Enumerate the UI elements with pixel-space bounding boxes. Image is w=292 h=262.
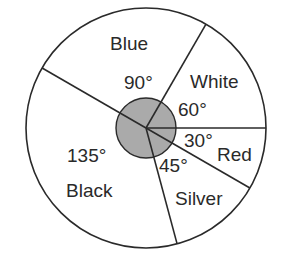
angle-label-red: 30° <box>184 130 213 151</box>
angle-label-black: 135° <box>67 145 106 166</box>
label-red: Red <box>217 144 252 165</box>
angle-label-white: 60° <box>178 99 207 120</box>
angle-label-silver: 45° <box>159 155 188 176</box>
label-silver: Silver <box>175 188 223 209</box>
label-white: White <box>190 71 239 92</box>
angle-label-blue: 90° <box>124 72 153 93</box>
pie-chart: Blue White Red Silver Black 90° 60° 30° … <box>0 0 292 262</box>
label-black: Black <box>66 180 113 201</box>
label-blue: Blue <box>110 33 148 54</box>
